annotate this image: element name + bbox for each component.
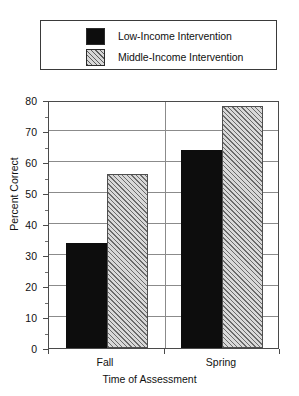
x-tick xyxy=(164,349,165,354)
bar-fall-middle-income xyxy=(107,174,148,348)
x-tick-label-fall: Fall xyxy=(48,356,162,368)
legend-label-low-income: Low-Income Intervention xyxy=(118,30,232,42)
bar-chart-figure: Low-Income Intervention Middle-Income In… xyxy=(0,0,299,396)
y-axis-title: Percent Correct xyxy=(8,149,20,239)
y-minor-tick xyxy=(45,179,48,180)
legend-entry-low-income: Low-Income Intervention xyxy=(86,26,232,46)
y-tick xyxy=(43,101,48,102)
group-divider xyxy=(165,102,166,348)
y-minor-tick xyxy=(45,148,48,149)
y-tick xyxy=(43,132,48,133)
y-tick-label: 30 xyxy=(15,251,37,262)
x-axis-title: Time of Assessment xyxy=(0,373,299,385)
y-minor-tick xyxy=(45,241,48,242)
hatched-gray-swatch xyxy=(86,49,105,66)
y-tick-label: 0 xyxy=(15,344,37,355)
x-tick xyxy=(279,349,280,354)
y-tick xyxy=(43,163,48,164)
x-tick xyxy=(48,349,49,354)
y-tick-label: 20 xyxy=(15,282,37,293)
y-tick xyxy=(43,194,48,195)
y-tick xyxy=(43,225,48,226)
y-minor-tick xyxy=(45,303,48,304)
solid-black-swatch xyxy=(86,28,105,45)
y-tick xyxy=(43,256,48,257)
plot-area xyxy=(48,101,279,349)
y-minor-tick xyxy=(45,210,48,211)
bar-spring-middle-income xyxy=(222,106,263,348)
y-minor-tick xyxy=(45,272,48,273)
y-tick xyxy=(43,287,48,288)
x-tick-label-spring: Spring xyxy=(163,356,279,368)
bar-fall-low-income xyxy=(66,243,107,348)
chart-legend: Low-Income Intervention Middle-Income In… xyxy=(40,20,277,70)
y-minor-tick xyxy=(45,117,48,118)
y-tick-label: 10 xyxy=(15,313,37,324)
legend-label-middle-income: Middle-Income Intervention xyxy=(118,51,243,63)
y-axis-line xyxy=(48,101,49,349)
y-tick xyxy=(43,318,48,319)
bar-spring-low-income xyxy=(181,150,222,348)
legend-entry-middle-income: Middle-Income Intervention xyxy=(86,47,243,67)
y-tick-label: 80 xyxy=(15,96,37,107)
y-minor-tick xyxy=(45,334,48,335)
y-tick-label: 70 xyxy=(15,127,37,138)
